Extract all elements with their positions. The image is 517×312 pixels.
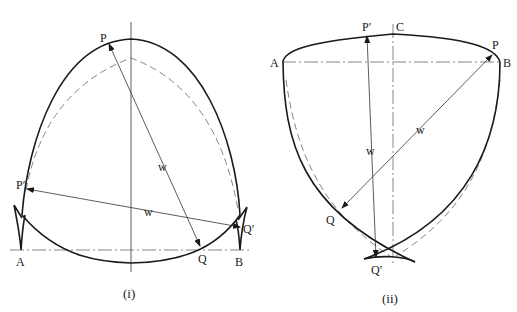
dashed-reference-right (396, 80, 500, 256)
figure-ii: P′ C P A B w w Q Q′ (ii) (270, 20, 511, 306)
top-arc (283, 34, 500, 62)
dashed-reference-curve (26, 58, 238, 210)
figure-i: P P′ w w Q Q′ A B (i) (10, 22, 255, 301)
left-cusp (14, 205, 25, 250)
label-P: P (100, 31, 107, 45)
label-Q: Q (198, 252, 207, 266)
label-A: A (270, 56, 279, 70)
left-flank (283, 62, 415, 262)
label-Q: Q (326, 213, 335, 227)
caption-i: (i) (123, 286, 135, 301)
label-B: B (503, 56, 511, 70)
label-P-prime: P′ (16, 178, 26, 192)
label-w-vertical: w (158, 160, 167, 174)
width-arrow-PprimeQprime (27, 189, 240, 227)
caption-ii: (ii) (382, 291, 398, 306)
label-w-horizontal: w (144, 205, 153, 219)
label-P: P (492, 38, 499, 52)
label-w-vertical: w (366, 144, 375, 158)
label-Q-prime: Q′ (371, 263, 383, 277)
label-B: B (235, 255, 243, 269)
label-C: C (396, 20, 404, 34)
label-P-prime: P′ (362, 20, 372, 34)
width-arrow-PQ (109, 44, 200, 246)
label-Q-prime: Q′ (243, 222, 255, 236)
label-w-diagonal: w (416, 123, 425, 137)
dashed-reference-left (286, 80, 390, 256)
bottom-cusp (364, 257, 415, 262)
label-A: A (16, 255, 25, 269)
